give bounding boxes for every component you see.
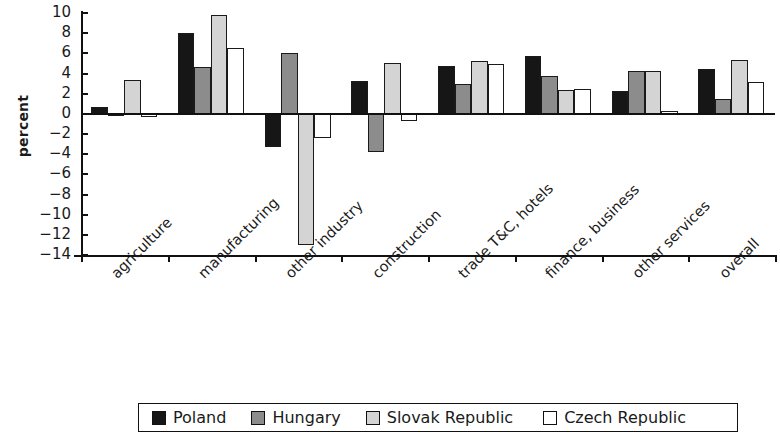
bar	[368, 114, 385, 152]
bar	[314, 114, 331, 138]
zero-baseline	[81, 113, 775, 115]
bar-group	[91, 13, 157, 255]
y-axis-tick-label: 4	[31, 64, 71, 82]
bar-group	[265, 13, 331, 255]
bar-group	[351, 13, 417, 255]
x-axis-tick-mark	[341, 255, 343, 262]
x-axis-tick-mark	[428, 255, 430, 262]
bar	[715, 99, 732, 114]
bar-group	[178, 13, 244, 255]
bar-group	[525, 13, 591, 255]
bar	[298, 114, 315, 245]
bar	[281, 53, 298, 114]
legend-item: Czech Republic	[543, 408, 686, 427]
bar	[748, 82, 765, 114]
legend-label: Czech Republic	[564, 408, 686, 427]
legend-swatch-white-empty-square	[543, 411, 557, 425]
bar	[384, 63, 401, 113]
bar	[194, 67, 211, 113]
y-axis-tick-label: 6	[31, 43, 71, 61]
x-axis-tick-mark	[602, 255, 604, 262]
bar	[698, 69, 715, 113]
bar	[525, 56, 542, 113]
y-axis-tick-label: 0	[31, 104, 71, 122]
y-axis-tick-mark	[81, 12, 88, 14]
bar	[178, 33, 195, 114]
bar	[558, 90, 575, 114]
y-axis-tick-mark	[81, 32, 88, 34]
legend-label: Poland	[173, 408, 226, 427]
bar	[645, 71, 662, 113]
y-axis-tick-label: −2	[31, 124, 71, 142]
x-axis-tick-mark	[688, 255, 690, 262]
bar	[211, 15, 228, 114]
x-axis-tick-mark	[168, 255, 170, 262]
bar	[731, 60, 748, 113]
y-axis-tick-label: 2	[31, 84, 71, 102]
x-axis-tick-mark	[515, 255, 517, 262]
y-axis-tick-mark	[81, 173, 88, 175]
y-axis-tick-label: −10	[31, 205, 71, 223]
bar	[401, 114, 418, 121]
y-axis-tick-mark	[81, 153, 88, 155]
y-axis-tick-mark	[81, 93, 88, 95]
bar-chart: percent 1086420−2−4−6−8−10−12−14 agricul…	[0, 0, 780, 438]
bar	[227, 48, 244, 114]
x-axis-tick-mark	[81, 255, 83, 262]
y-axis-tick-label: −6	[31, 164, 71, 182]
x-axis-line	[74, 255, 775, 257]
bar	[265, 114, 282, 147]
y-axis-tick-mark	[81, 52, 88, 54]
legend-swatch-light-gray-filled-square	[366, 411, 380, 425]
bar	[471, 61, 488, 113]
x-axis-tick-mark	[775, 255, 777, 262]
bar	[455, 84, 472, 114]
bar-group	[612, 13, 678, 255]
bar	[351, 81, 368, 114]
y-axis-tick-label: −14	[31, 245, 71, 263]
y-axis-tick-label: −8	[31, 185, 71, 203]
legend-item: Hungary	[251, 408, 340, 427]
legend-label: Slovak Republic	[387, 408, 513, 427]
y-axis-tick-label: −4	[31, 144, 71, 162]
legend-item: Poland	[152, 408, 226, 427]
legend-swatch-black-filled-square	[152, 411, 166, 425]
legend-swatch-dark-gray-filled-square	[251, 411, 265, 425]
bar-group	[438, 13, 504, 255]
y-axis-tick-label: −12	[31, 225, 71, 243]
y-axis-tick-mark	[81, 234, 88, 236]
bar	[574, 89, 591, 114]
y-axis-tick-label: 8	[31, 23, 71, 41]
y-axis-title: percent	[15, 81, 31, 171]
y-axis-tick-mark	[81, 73, 88, 75]
y-axis-tick-mark	[81, 133, 88, 135]
y-axis-tick-label: 10	[31, 3, 71, 21]
bar	[124, 80, 141, 114]
y-axis-tick-mark	[81, 214, 88, 216]
x-axis-tick-mark	[255, 255, 257, 262]
legend-label: Hungary	[272, 408, 340, 427]
legend-item: Slovak Republic	[366, 408, 513, 427]
bar	[628, 71, 645, 113]
bar	[612, 91, 629, 114]
bar	[438, 66, 455, 113]
bar	[541, 76, 558, 114]
bar-group	[698, 13, 764, 255]
bar	[488, 64, 505, 113]
y-axis-tick-mark	[81, 194, 88, 196]
legend: PolandHungarySlovak RepublicCzech Republ…	[138, 403, 738, 432]
